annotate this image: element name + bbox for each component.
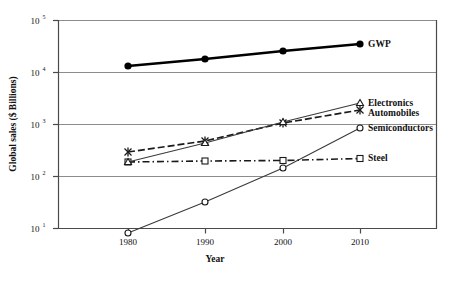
ytick-label-1e1-base: 10 bbox=[31, 224, 41, 234]
ytick-label-1e1-exp: 1 bbox=[43, 222, 46, 228]
gwp-point-1980 bbox=[124, 62, 131, 69]
gwp-point-2010 bbox=[356, 40, 363, 47]
chart-figure: 10 5 10 4 10 3 10 2 10 1 1980 1990 2000 … bbox=[0, 0, 455, 283]
ytick-label-1e5-base: 10 bbox=[31, 16, 41, 26]
ytick-label-1e3-base: 10 bbox=[31, 120, 41, 130]
series-label-steel: Steel bbox=[368, 153, 388, 163]
series-label-automobiles: Automobiles bbox=[368, 108, 420, 118]
series-label-semiconductors: Semiconductors bbox=[368, 123, 433, 133]
semiconductors-point-1990 bbox=[202, 199, 208, 205]
gwp-point-1990 bbox=[201, 55, 208, 62]
x-axis-title: Year bbox=[206, 254, 226, 264]
semiconductors-point-1980 bbox=[125, 230, 131, 236]
ytick-label-1e4-exp: 4 bbox=[43, 66, 46, 72]
ytick-label-1e2-exp: 2 bbox=[43, 170, 46, 176]
steel-point-2010 bbox=[357, 156, 363, 162]
gwp-point-2000 bbox=[279, 47, 286, 54]
ytick-label-1e2-base: 10 bbox=[31, 172, 41, 182]
y-axis-title: Global sales ($ Billions) bbox=[8, 76, 19, 171]
xtick-label-2000: 2000 bbox=[274, 237, 293, 247]
xtick-label-2010: 2010 bbox=[351, 237, 370, 247]
steel-point-1990 bbox=[202, 158, 208, 164]
ytick-label-1e4-base: 10 bbox=[31, 68, 41, 78]
xtick-label-1990: 1990 bbox=[196, 237, 215, 247]
series-label-gwp: GWP bbox=[368, 39, 391, 49]
log-line-chart: 10 5 10 4 10 3 10 2 10 1 1980 1990 2000 … bbox=[0, 0, 455, 283]
semiconductors-point-2000 bbox=[280, 165, 286, 171]
ytick-label-1e3-exp: 3 bbox=[43, 118, 46, 124]
series-label-electronics: Electronics bbox=[368, 98, 414, 108]
ytick-label-1e5-exp: 5 bbox=[43, 14, 46, 20]
steel-point-2000 bbox=[280, 158, 286, 164]
semiconductors-point-2010 bbox=[357, 125, 363, 131]
xtick-label-1980: 1980 bbox=[119, 237, 138, 247]
